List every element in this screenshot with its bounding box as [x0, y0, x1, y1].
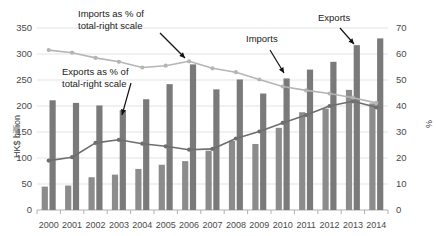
y-tick-right-40: 40	[396, 100, 422, 111]
exports-bar-arrow	[340, 28, 354, 44]
y-tick-left-300: 300	[6, 48, 32, 59]
line-marker	[187, 148, 191, 152]
line-marker	[93, 141, 97, 145]
x-tick-2014: 2014	[362, 220, 390, 230]
y-tick-right-10: 10	[396, 178, 422, 189]
line-marker	[210, 66, 214, 70]
bar-exports-2002	[89, 177, 95, 210]
line-marker	[281, 121, 285, 125]
line-marker	[351, 99, 355, 103]
bar-exports-2000	[42, 187, 48, 210]
imports-pct-annotation-line2: total-right scale	[78, 20, 144, 32]
y-tick-right-20: 20	[396, 152, 422, 163]
line-marker	[257, 77, 261, 81]
bar-imports-2006	[190, 64, 196, 210]
line-marker	[374, 101, 378, 105]
bar-imports-2013	[354, 45, 360, 210]
bar-imports-2002	[96, 105, 102, 210]
imports-bar-arrow	[270, 50, 284, 73]
line-marker	[234, 70, 238, 74]
bar-exports-2004	[135, 169, 141, 210]
bar-exports-2003	[112, 175, 118, 210]
y-tick-left-100: 100	[6, 152, 32, 163]
bar-imports-2012	[330, 62, 336, 210]
bar-imports-2014	[377, 38, 383, 210]
line-marker	[187, 59, 191, 63]
bar-imports-2010	[284, 78, 290, 210]
line-marker	[93, 56, 97, 60]
bar-exports-2014	[369, 103, 375, 210]
imports-bar-annotation-line1: Imports	[246, 33, 278, 45]
bar-exports-2006	[182, 161, 188, 210]
bar-exports-2011	[299, 112, 305, 210]
imports-pct-annotation: Imports as % of total-right scale	[78, 8, 144, 32]
bar-exports-2007	[206, 151, 212, 210]
exports-pct-annotation-line2: total-right scale	[62, 78, 129, 90]
line-marker	[164, 64, 168, 68]
exports-bar-annotation-line1: Exports	[318, 12, 350, 24]
line-marker	[234, 136, 238, 140]
y-tick-left-200: 200	[6, 100, 32, 111]
bar-exports-2012	[323, 109, 329, 210]
y-tick-left-150: 150	[6, 126, 32, 137]
bar-imports-2003	[120, 110, 126, 210]
line-marker	[117, 60, 121, 64]
imports-pct-annotation-line1: Imports as % of	[78, 8, 144, 20]
bar-exports-2010	[276, 128, 282, 210]
line-marker	[304, 88, 308, 92]
bar-imports-2000	[50, 100, 56, 210]
bar-exports-2013	[346, 90, 352, 210]
y-tick-right-50: 50	[396, 74, 422, 85]
imports-bar-annotation: Imports	[246, 33, 278, 45]
chart-container: HK$ billion % 050100150200250300350 0102…	[0, 0, 436, 236]
y-tick-right-70: 70	[396, 22, 422, 33]
line-marker	[281, 84, 285, 88]
bar-imports-2009	[260, 94, 266, 210]
bar-exports-2001	[65, 186, 71, 210]
y-tick-left-350: 350	[6, 22, 32, 33]
exports-pct-annotation-line1: Exports as % of	[62, 66, 129, 78]
y-tick-right-60: 60	[396, 48, 422, 59]
line-marker	[117, 138, 121, 142]
line-marker	[47, 159, 51, 163]
bar-imports-2004	[143, 99, 149, 210]
line-marker	[70, 51, 74, 55]
bar-imports-2008	[237, 79, 243, 210]
line-marker	[140, 65, 144, 69]
y-tick-left-50: 50	[6, 178, 32, 189]
line-marker	[47, 48, 51, 52]
exports-bar-annotation: Exports	[318, 12, 350, 24]
y-tick-right-30: 30	[396, 126, 422, 137]
line-marker	[304, 113, 308, 117]
chart-plot-area	[0, 0, 436, 236]
line-marker	[70, 155, 74, 159]
line-marker	[351, 96, 355, 100]
y-tick-left-0: 0	[6, 204, 32, 215]
exports-pct-annotation: Exports as % of total-right scale	[62, 66, 129, 90]
y-axis-label-right: %	[424, 120, 434, 128]
line-marker	[374, 105, 378, 109]
bar-exports-2009	[252, 144, 258, 210]
line-marker	[257, 129, 261, 133]
bar-exports-2008	[229, 141, 235, 210]
y-tick-left-250: 250	[6, 74, 32, 85]
line-marker	[164, 144, 168, 148]
line-marker	[140, 142, 144, 146]
line-marker	[327, 91, 331, 95]
bar-exports-2005	[159, 165, 165, 210]
y-tick-right-0: 0	[396, 204, 422, 215]
line-marker	[327, 104, 331, 108]
line-marker	[210, 147, 214, 151]
